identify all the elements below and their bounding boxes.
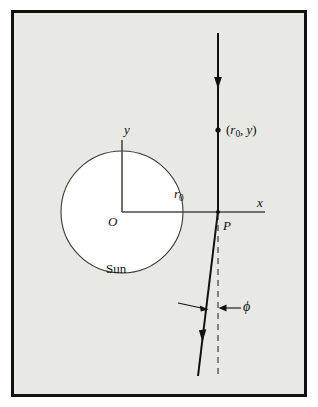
phi-angle-label: ϕ (243, 300, 250, 314)
outgoing-ray-arrowhead (199, 329, 207, 342)
point-P-label: P (223, 219, 231, 232)
y-axis-label: y (124, 123, 130, 136)
incoming-ray-arrowhead (214, 77, 222, 89)
coordinate-label: (r0, y) (226, 123, 257, 139)
figure-root: y x O r0 P Sun ϕ (r0, y) (0, 0, 318, 407)
coordinate-label-close: ) (252, 122, 256, 137)
radius-label: r0 (174, 187, 184, 203)
origin-label: O (108, 215, 117, 228)
phi-right-pointer-arrowhead (219, 305, 227, 312)
sun-label: Sun (106, 262, 126, 275)
x-axis-label: x (257, 196, 263, 209)
radius-label-subscript: 0 (179, 193, 184, 203)
figure-frame: y x O r0 P Sun ϕ (r0, y) (11, 10, 307, 397)
point-P-marker (216, 210, 220, 214)
outgoing-ray (198, 211, 218, 376)
coordinate-marker-dot (215, 127, 220, 132)
